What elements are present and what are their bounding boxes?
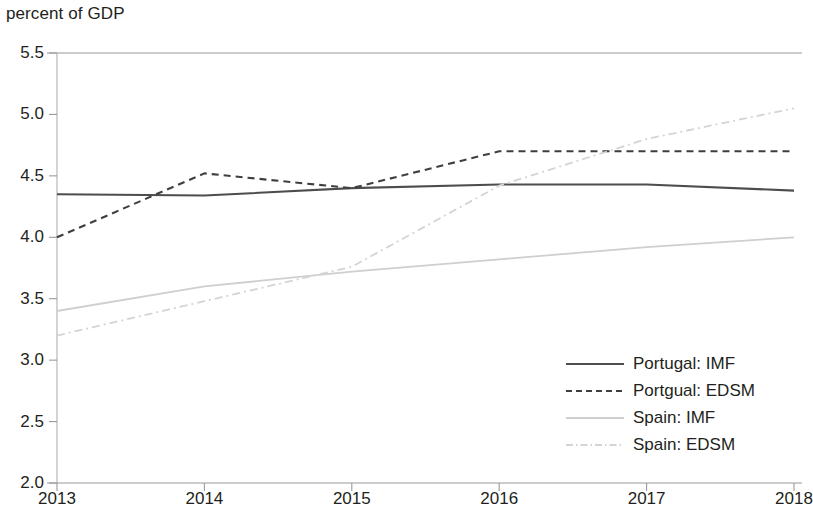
legend-swatch-solid-dark-icon bbox=[566, 358, 624, 370]
legend-swatch-dashdot-light-icon bbox=[566, 439, 624, 451]
legend-swatch-dashed-dark-icon bbox=[566, 385, 624, 397]
legend-label: Portgual: EDSM bbox=[633, 382, 755, 399]
legend-item-spain-edsm[interactable]: Spain: EDSM bbox=[566, 431, 798, 458]
legend-item-portugal-edsm[interactable]: Portgual: EDSM bbox=[566, 377, 798, 404]
chart-legend: Portugal: IMF Portgual: EDSM Spain: IMF … bbox=[566, 350, 798, 458]
legend-label: Spain: IMF bbox=[633, 409, 715, 426]
legend-label: Spain: EDSM bbox=[633, 436, 735, 453]
legend-label: Portugal: IMF bbox=[633, 355, 735, 372]
legend-item-portugal-imf[interactable]: Portugal: IMF bbox=[566, 350, 798, 377]
legend-swatch-solid-light-icon bbox=[566, 412, 624, 424]
series-line bbox=[57, 108, 794, 335]
series-line bbox=[57, 237, 794, 311]
legend-item-spain-imf[interactable]: Spain: IMF bbox=[566, 404, 798, 431]
